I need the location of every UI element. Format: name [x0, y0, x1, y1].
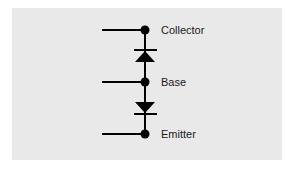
- collector-label: Collector: [161, 24, 204, 36]
- collector-base-diode-icon: [134, 50, 157, 62]
- emitter-label: Emitter: [161, 128, 196, 140]
- base-emitter-diode-icon: [134, 102, 157, 114]
- collector-node: [141, 26, 150, 35]
- transistor-diode-model: [0, 0, 286, 169]
- base-label: Base: [161, 76, 186, 88]
- base-node: [141, 78, 150, 87]
- emitter-node: [141, 130, 150, 139]
